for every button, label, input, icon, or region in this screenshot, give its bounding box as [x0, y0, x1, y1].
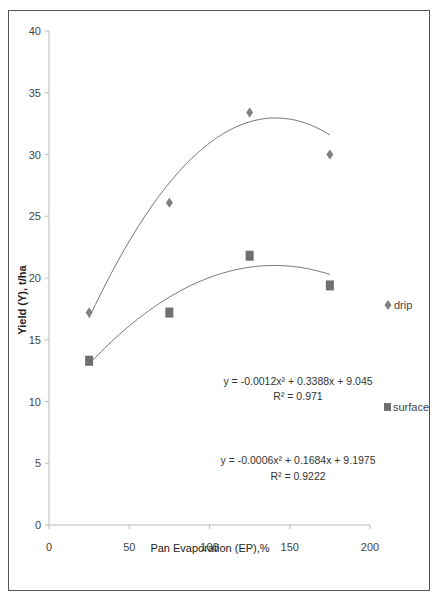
data-point-surface: [165, 308, 173, 318]
scatter-chart: 0510152025303540 050100150200 Pan Evapor…: [0, 0, 436, 597]
data-point-drip: [326, 150, 333, 160]
surface-equation: y = -0.0006x² + 0.1684x + 9.1975: [221, 454, 376, 466]
x-tick-label: 150: [281, 541, 299, 553]
square-marker-icon: [384, 403, 391, 411]
y-tick-label: 15: [29, 334, 41, 346]
legend-item-drip: drip: [385, 299, 413, 311]
y-tick-label: 40: [29, 25, 41, 37]
data-point-drip: [246, 108, 253, 118]
data-point-surface: [326, 280, 334, 290]
y-ticks: 0510152025303540: [29, 25, 49, 531]
y-tick-label: 0: [35, 519, 41, 531]
y-tick-label: 20: [29, 272, 41, 284]
y-tick-label: 30: [29, 149, 41, 161]
y-axis-title: Yield (Y), t/ha: [16, 264, 28, 334]
data-point-surface: [246, 251, 254, 261]
drip-r2: R² = 0.971: [273, 390, 322, 402]
trendlines: [89, 118, 330, 364]
diamond-marker-icon: [385, 300, 392, 310]
y-tick-label: 25: [29, 210, 41, 222]
y-tick-label: 10: [29, 396, 41, 408]
trendline-annotations: y = -0.0012x² + 0.3388x + 9.045 R² = 0.9…: [221, 375, 376, 482]
data-points: [85, 108, 334, 366]
x-tick-label: 50: [123, 541, 135, 553]
data-point-drip: [166, 198, 173, 208]
x-tick-label: 200: [361, 541, 379, 553]
trendline-drip: [89, 118, 330, 318]
trendline-surface: [89, 266, 330, 365]
legend-label-surface: surface: [393, 401, 429, 413]
legend: drip surface: [384, 299, 429, 413]
y-tick-label: 5: [35, 457, 41, 469]
x-tick-label: 0: [46, 541, 52, 553]
x-axis-title: Pan Evaporation (EP),%: [150, 542, 269, 554]
drip-equation: y = -0.0012x² + 0.3388x + 9.045: [223, 375, 372, 387]
surface-r2: R² = 0.9222: [270, 470, 325, 482]
legend-item-surface: surface: [384, 401, 429, 413]
data-point-surface: [85, 356, 93, 366]
y-tick-label: 35: [29, 87, 41, 99]
data-point-drip: [86, 308, 93, 318]
legend-label-drip: drip: [394, 299, 412, 311]
